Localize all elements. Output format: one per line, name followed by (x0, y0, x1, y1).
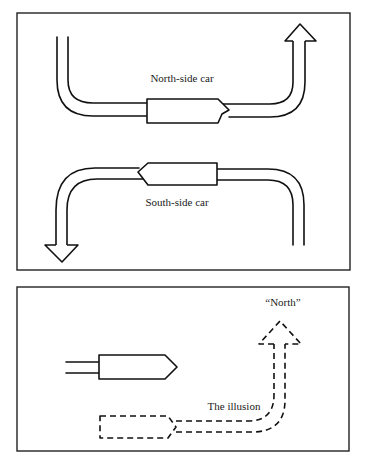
actual-car (66, 355, 177, 379)
bottom-panel-frame (17, 287, 349, 451)
north-target-label: “North” (265, 296, 301, 308)
north-arrowhead-icon (285, 24, 316, 41)
diagram-canvas: North-side car South-side car “North” Th… (0, 0, 365, 460)
north-side-car (147, 99, 229, 123)
south-arrowhead-icon (45, 245, 78, 262)
north-side-car-label: North-side car (150, 72, 214, 84)
illusion-arrowhead-icon (259, 321, 301, 344)
illusion-label: The illusion (208, 400, 261, 412)
south-side-car-label: South-side car (145, 196, 209, 208)
south-side-car (138, 163, 217, 185)
